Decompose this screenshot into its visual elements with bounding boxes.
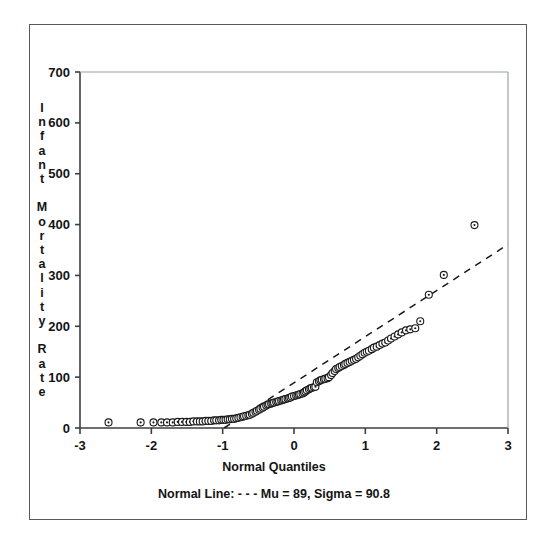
y-axis-title-char: R	[37, 342, 46, 356]
y-axis-title-char: f	[40, 129, 45, 143]
y-axis-title-char: i	[40, 286, 43, 300]
data-point	[412, 325, 419, 332]
y-axis-title-char: I	[40, 101, 43, 115]
x-axis-ticks: -3-2-10123	[74, 428, 511, 453]
y-axis-title-char: a	[39, 257, 47, 271]
y-axis-title-char: o	[38, 215, 46, 229]
y-tick-label: 300	[48, 268, 70, 283]
y-axis-title-char: t	[40, 243, 45, 257]
y-tick-label: 400	[48, 217, 70, 232]
x-tick-label: 1	[362, 438, 369, 453]
y-tick-label: 600	[48, 115, 70, 130]
y-axis-title-char: t	[40, 300, 45, 314]
y-axis-title-char: t	[40, 371, 45, 385]
normal-reference-line	[224, 244, 508, 428]
y-tick-label: 100	[48, 370, 70, 385]
y-axis-title-char: t	[40, 172, 45, 186]
data-point	[150, 419, 157, 426]
y-tick-label: 0	[63, 421, 70, 436]
y-axis-title-char: l	[40, 271, 43, 285]
qq-plot-svg: InfantMortalityRate -3-2-10123 010020030…	[0, 0, 547, 545]
plot-axes	[80, 72, 508, 428]
y-axis-title-char: y	[39, 314, 46, 328]
data-point	[440, 271, 447, 278]
data-point	[425, 291, 432, 298]
y-axis-title-char: e	[39, 385, 46, 399]
y-axis-title-char: M	[37, 200, 47, 214]
x-tick-label: -3	[74, 438, 86, 453]
legend-normal-line: Normal Line: - - - Mu = 89, Sigma = 90.8	[158, 487, 390, 501]
data-point	[105, 419, 112, 426]
y-tick-label: 500	[48, 166, 70, 181]
x-tick-label: -1	[217, 438, 229, 453]
data-point	[417, 318, 424, 325]
y-axis-ticks: 0100200300400500600700	[48, 65, 80, 436]
x-tick-label: 3	[504, 438, 511, 453]
y-tick-label: 200	[48, 319, 70, 334]
x-axis-title: Normal Quantiles	[222, 460, 326, 474]
y-axis-title-char: r	[40, 229, 45, 243]
data-point-series	[105, 222, 478, 426]
x-tick-label: 0	[290, 438, 297, 453]
figure-container: InfantMortalityRate -3-2-10123 010020030…	[0, 0, 547, 545]
x-tick-label: 2	[433, 438, 440, 453]
y-tick-label: 700	[48, 65, 70, 80]
y-axis-title: InfantMortalityRate	[37, 101, 47, 399]
x-tick-label: -2	[146, 438, 158, 453]
data-point	[471, 222, 478, 229]
y-axis-title-char: n	[38, 115, 46, 129]
y-axis-title-char: n	[38, 158, 46, 172]
y-axis-title-char: a	[39, 357, 47, 371]
data-point	[137, 419, 144, 426]
y-axis-title-char: a	[39, 144, 47, 158]
